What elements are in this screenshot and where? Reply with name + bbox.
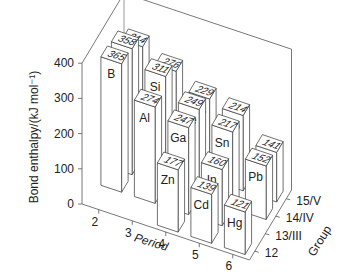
- chart-bars: 314N276P229As214Sb141Bi358C311Si249Ge217…: [101, 29, 283, 255]
- z-tick-label: 100: [54, 162, 74, 176]
- bar-hg: 121Hg: [224, 194, 251, 254]
- bar-element-label: Zn: [161, 173, 175, 187]
- group-tick-label: 12: [265, 246, 279, 260]
- bar-element-label: Cd: [194, 198, 209, 212]
- period-tick-label: 3: [125, 226, 132, 240]
- bar-cd: 139Cd: [191, 177, 218, 244]
- bar-element-label: Hg: [227, 216, 242, 230]
- bar-zn: 177Zn: [157, 152, 185, 232]
- z-tick-label: 0: [67, 197, 74, 211]
- period-tick-label: 5: [192, 248, 199, 262]
- z-axis-title: Bond enthalpy/(kJ mol⁻¹): [27, 71, 41, 204]
- z-tick-label: 400: [54, 56, 74, 70]
- bar-element-label: Sn: [215, 136, 230, 150]
- y-axis-title: Group: [305, 223, 335, 259]
- z-tick-label: 300: [54, 91, 74, 105]
- z-tick-label: 200: [54, 127, 74, 141]
- bar-element-label: B: [107, 67, 115, 81]
- group-tick-label: 15/V: [296, 194, 321, 208]
- group-tick-label: 14/IV: [286, 211, 314, 225]
- bar-element-label: Al: [139, 111, 150, 125]
- bond-enthalpy-3d-bar-chart: 314N276P229As214Sb141Bi358C311Si249Ge217…: [0, 0, 358, 273]
- bar-b: 365B: [101, 46, 128, 192]
- period-tick-label: 2: [91, 215, 98, 229]
- bar-element-label: Ga: [170, 131, 186, 145]
- group-tick-label: 13/III: [275, 229, 302, 243]
- period-tick-label: 6: [225, 259, 232, 273]
- x-axis-title: Period: [133, 230, 171, 254]
- bar-element-label: Pb: [248, 170, 263, 184]
- bar-element-label: Si: [150, 80, 161, 94]
